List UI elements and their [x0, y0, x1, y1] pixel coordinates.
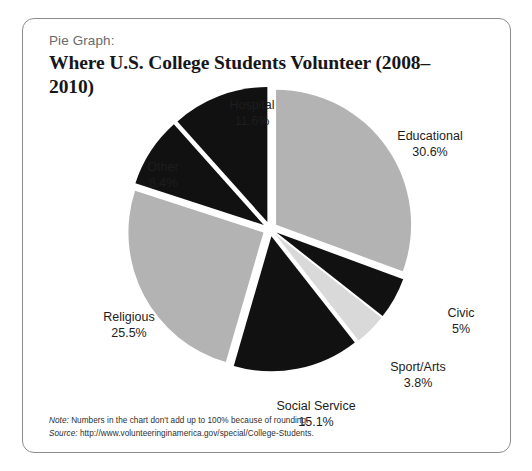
note-line: Note: Numbers in the chart don't add up …: [49, 414, 479, 427]
pie-label-hospital-value: 11.6%: [197, 114, 307, 130]
source-line: Source: http://www.volunteeringinamerica…: [49, 427, 479, 440]
note-label: Note:: [49, 416, 69, 425]
figure-frame: Pie Graph: Where U.S. College Students V…: [22, 18, 511, 453]
pie-label-civic-name: Civic: [422, 306, 500, 322]
pie-label-civic-value: 5%: [422, 322, 500, 338]
pie-label-educational: Educational 30.6%: [370, 129, 490, 160]
pie-label-religious: Religious 25.5%: [75, 310, 183, 341]
pie-label-other-name: Other: [119, 160, 207, 176]
pie-label-other-value: 8.4%: [119, 176, 207, 192]
pie-label-religious-value: 25.5%: [75, 326, 183, 342]
pie-label-educational-value: 30.6%: [370, 145, 490, 161]
figure-footnotes: Note: Numbers in the chart don't add up …: [49, 414, 479, 440]
pie-label-hospital: Hospital 11.6%: [197, 98, 307, 129]
source-text: http://www.volunteeringinamerica.gov/spe…: [78, 429, 314, 438]
pie-label-religious-name: Religious: [75, 310, 183, 326]
source-label: Source:: [49, 429, 78, 438]
note-text: Numbers in the chart don't add up to 100…: [69, 416, 309, 425]
pie-label-socialservice-name: Social Service: [251, 399, 381, 415]
pie-label-sportarts-value: 3.8%: [363, 376, 473, 392]
pie-chart: Hospital 11.6% Educational 30.6% Civic 5…: [23, 79, 512, 409]
pie-label-other: Other 8.4%: [119, 160, 207, 191]
pie-label-hospital-name: Hospital: [197, 98, 307, 114]
pie-label-sportarts-name: Sport/Arts: [363, 360, 473, 376]
pie-label-civic: Civic 5%: [422, 306, 500, 337]
figure-kicker: Pie Graph:: [49, 32, 469, 49]
pie-label-educational-name: Educational: [370, 129, 490, 145]
pie-label-sportarts: Sport/Arts 3.8%: [363, 360, 473, 391]
